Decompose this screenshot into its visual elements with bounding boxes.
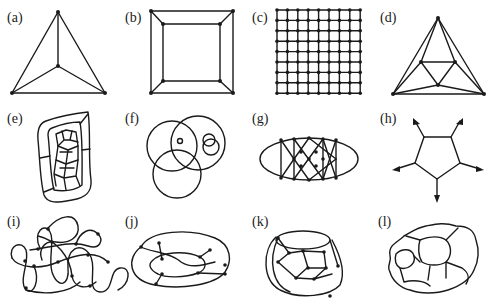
panel-label-e: (e) <box>7 111 23 127</box>
panel-label-a: (a) <box>7 10 23 26</box>
panel-label-d: (d) <box>380 10 397 26</box>
figure-canvas: (a) (b) (c) (d) <box>0 0 486 302</box>
panel-label-c: (c) <box>252 10 268 26</box>
panel-h: (h) <box>380 111 484 203</box>
panel-i: (i) <box>7 214 128 293</box>
panel-k: (k) <box>252 214 342 298</box>
panel-d: (d) <box>380 10 486 96</box>
panel-c: (c) <box>252 8 362 95</box>
panel-label-j: (j) <box>125 214 139 230</box>
panel-label-f: (f) <box>125 111 139 127</box>
panel-label-k: (k) <box>252 214 269 230</box>
panel-label-i: (i) <box>7 214 21 230</box>
panel-f: (f) <box>125 111 225 198</box>
panel-label-l: (l) <box>378 214 392 230</box>
panel-l: (l) <box>378 214 478 293</box>
panel-j: (j) <box>125 214 229 287</box>
panel-b: (b) <box>125 9 235 95</box>
panel-e: (e) <box>7 111 91 202</box>
panel-g: (g) <box>252 111 358 182</box>
panel-label-b: (b) <box>125 10 142 26</box>
panel-a: (a) <box>7 10 107 95</box>
panel-label-g: (g) <box>252 111 269 127</box>
panel-label-h: (h) <box>380 111 397 127</box>
